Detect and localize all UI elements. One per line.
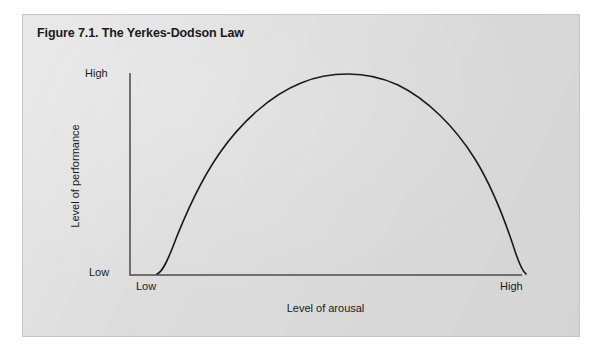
x-axis-tick-high: High — [500, 280, 523, 292]
plot-area: High Low Low High Level of performance L… — [23, 15, 581, 338]
y-axis-tick-high: High — [85, 67, 108, 79]
y-axis-title: Level of performance — [69, 96, 81, 256]
x-axis-title: Level of arousal — [129, 302, 522, 314]
curve-chart — [23, 15, 581, 338]
x-axis-tick-low: Low — [136, 280, 156, 292]
y-axis-tick-low: Low — [89, 266, 109, 278]
figure-panel: Figure 7.1. The Yerkes-Dodson Law High L… — [22, 14, 580, 337]
performance-curve — [157, 74, 526, 274]
